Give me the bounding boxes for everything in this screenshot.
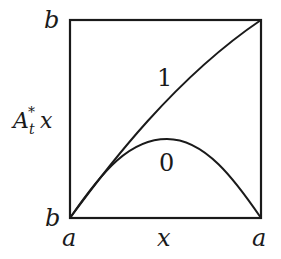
curve-1-label: 1 bbox=[157, 64, 172, 92]
y-top-label: b bbox=[44, 6, 59, 34]
y-axis-label-main: A bbox=[11, 108, 29, 133]
x-left-label: a bbox=[62, 224, 76, 252]
y-axis-label-sup: * bbox=[28, 104, 35, 120]
curve-0-label: 0 bbox=[159, 149, 174, 177]
y-bottom-label: b bbox=[45, 204, 60, 232]
y-axis-label-sub: t bbox=[29, 121, 35, 137]
x-right-label: a bbox=[252, 224, 266, 252]
curve-1 bbox=[70, 20, 261, 218]
y-axis-label-var: x bbox=[40, 108, 53, 133]
y-axis-label: A * t x bbox=[11, 104, 53, 137]
x-mid-label: x bbox=[157, 224, 171, 252]
diagram-canvas: 1 0 b b A * t x a x a bbox=[0, 0, 281, 259]
bounding-square bbox=[70, 20, 261, 218]
